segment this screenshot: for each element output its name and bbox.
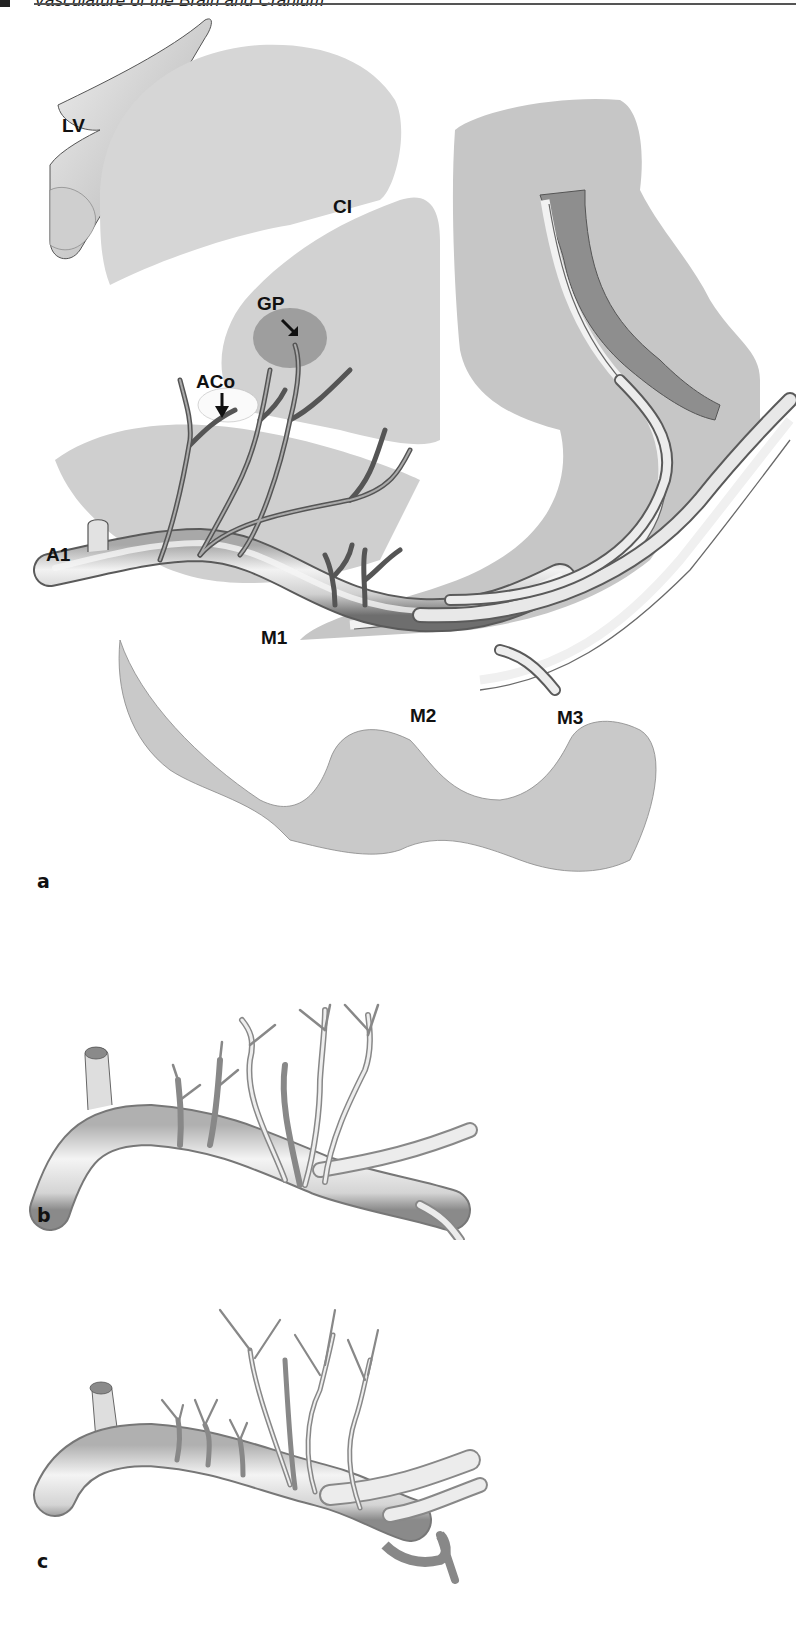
panel-letter-c: c bbox=[37, 1552, 48, 1571]
label-aco: ACo bbox=[196, 372, 235, 391]
figure-panel-c: c bbox=[0, 1260, 796, 1628]
label-gp: GP bbox=[257, 294, 284, 313]
gp-arrow-icon bbox=[280, 318, 302, 340]
aco-arrow-icon bbox=[214, 393, 230, 419]
figure-panel-a: LV CI GP ACo A1 M1 M2 M3 a bbox=[0, 0, 796, 900]
panel-letter-a: a bbox=[37, 872, 50, 891]
panel-letter-b: b bbox=[37, 1206, 51, 1225]
label-m1: M1 bbox=[261, 628, 287, 647]
panel-a-illustration bbox=[0, 0, 796, 900]
label-m2: M2 bbox=[410, 706, 436, 725]
figure-panel-b: b bbox=[0, 920, 796, 1240]
panel-c-illustration bbox=[0, 1260, 796, 1628]
label-ci: CI bbox=[333, 197, 352, 216]
panel-b-illustration bbox=[0, 920, 796, 1240]
label-m3: M3 bbox=[557, 708, 583, 727]
label-a1: A1 bbox=[46, 545, 70, 564]
label-lv: LV bbox=[62, 116, 85, 135]
